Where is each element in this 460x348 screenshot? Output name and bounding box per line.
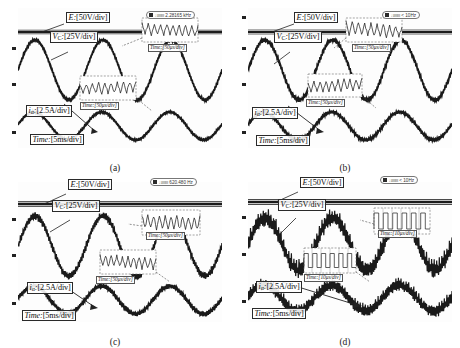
arrowhead-ia-c (90, 304, 98, 310)
channel-marker-2-c (12, 254, 16, 257)
inset-timebase-label-vc-d: Time:[10μs/div] (378, 230, 417, 238)
waveform-svg-b (248, 8, 452, 148)
label-current-d: iα:[2.5A/div] (256, 281, 302, 293)
oscilloscope-screen-c (18, 182, 222, 322)
channel-marker-0-b (242, 16, 246, 19)
label-timebase-c: Time:[5ms/div] (22, 310, 76, 321)
channel-marker-3-d (242, 300, 246, 303)
arrowhead-ia-b (316, 128, 324, 134)
label-source-voltage-a: E:[50V/div] (66, 12, 110, 23)
channel-marker-2-a (12, 83, 16, 86)
channel-marker-3-a (12, 131, 16, 134)
label-timebase-d: Time:[5ms/div] (252, 308, 306, 319)
label-timebase-b: Time:[5ms/div] (256, 135, 310, 146)
label-cap-voltage-a: VC:[25V/div] (50, 31, 98, 43)
label-cap-voltage-b: VC:[25V/div] (274, 31, 322, 43)
channel-marker-1-a (12, 47, 16, 50)
inset-timebase-label-ia-d: Time:[10μs/div] (304, 274, 343, 282)
channel-marker-3-b (242, 131, 246, 134)
panel-d: E:[50V/div] VC:[25V/div] iα:[2.5A/div] T… (230, 174, 460, 348)
label-cap-voltage-c: VC:[25V/div] (52, 200, 100, 212)
inset-timebase-label-ia-c: Time:[50μs/div] (96, 276, 135, 284)
inset-timebase-label-vc-a: Time:[50μs/div] (148, 44, 187, 52)
label-source-voltage-b: E:[50V/div] (294, 12, 338, 23)
oscilloscope-screen-b (248, 8, 452, 148)
label-source-voltage-c: E:[50V/div] (68, 179, 112, 190)
panel-caption-c: (c) (0, 337, 230, 347)
channel-marker-1-c (12, 218, 16, 221)
channel-marker-2-d (242, 253, 246, 256)
trigger-badge-b: ⎍ııııııı < 10Hz (382, 11, 420, 19)
label-current-b: iα:[2.5A/div] (252, 107, 298, 119)
arrowhead-ia-a (91, 128, 98, 134)
figure-panel-grid: E:[50V/div] VC:[25V/div] iα:[2.5A/div] T… (0, 0, 460, 348)
panel-caption-a: (a) (0, 163, 230, 173)
trigger-square-icon-c (153, 180, 157, 184)
panel-c: E:[50V/div] VC:[25V/div] iα:[2.5A/div] T… (0, 174, 230, 348)
panel-b: E:[50V/div] VC:[25V/div] iα:[2.5A/div] T… (230, 0, 460, 174)
leader-vc-c (50, 220, 70, 232)
label-current-a: iα:[2.5A/div] (26, 105, 72, 117)
waveform-svg-c (18, 182, 222, 322)
trigger-badge-a: ⎍ııııııı 2.28165 kHz (146, 11, 195, 19)
trigger-square-icon-b (385, 13, 389, 17)
trigger-badge-d: ⎍ııııııı < 10Hz (380, 176, 418, 184)
panel-caption-b: (b) (230, 163, 460, 173)
leader-vc-a (51, 52, 68, 60)
panel-a: E:[50V/div] VC:[25V/div] iα:[2.5A/div] T… (0, 0, 230, 174)
label-timebase-a: Time:[5ms/div] (30, 134, 84, 145)
channel-marker-1-d (242, 216, 246, 219)
trigger-square-icon-d (383, 178, 387, 182)
channel-marker-2-b (242, 83, 246, 86)
waveform-svg-a (18, 8, 222, 148)
channel-marker-3-c (12, 302, 16, 305)
label-cap-voltage-d: VC:[25V/div] (278, 199, 326, 211)
trigger-square-icon-a (149, 13, 153, 17)
channel-marker-1-b (242, 47, 246, 50)
inset-timebase-label-vc-c: Time:[50μs/div] (146, 232, 185, 240)
label-source-voltage-d: E:[50V/div] (300, 177, 344, 188)
oscilloscope-screen-a (18, 8, 222, 148)
trigger-badge-c: ⎍ııııııı 620.480 Hz (150, 178, 197, 186)
label-current-c: iα:[2.5A/div] (27, 282, 73, 294)
inset-timebase-label-ia-a: Time:[50μs/div] (80, 102, 119, 110)
inset-timebase-label-vc-b: Time:[50μs/div] (352, 44, 391, 52)
leader-vc-d (278, 218, 296, 236)
panel-caption-d: (d) (230, 337, 460, 347)
inset-timebase-label-ia-b: Time:[50μs/div] (306, 99, 345, 107)
